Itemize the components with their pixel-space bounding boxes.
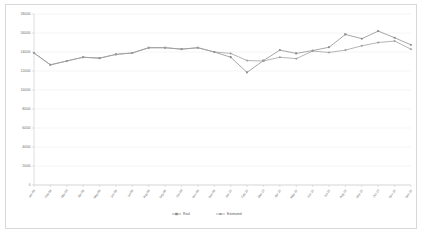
x-axis-tick-label: Dec-10	[404, 189, 413, 199]
series-line-real	[34, 31, 411, 72]
x-axis-tick-label: Dec-09	[207, 189, 216, 199]
x-axis-tick-label: Jul-09	[126, 189, 134, 198]
data-point-marker	[377, 42, 379, 44]
data-point-marker	[394, 37, 395, 38]
legend-marker	[176, 213, 177, 214]
y-axis-tick-label: 180000	[20, 12, 30, 16]
data-point-marker	[345, 34, 346, 35]
x-axis-tick-label: Feb-10	[240, 189, 249, 199]
x-axis-tick-label: Aug-10	[339, 189, 348, 199]
data-point-marker	[410, 44, 411, 45]
series-line-estimated	[34, 41, 411, 65]
y-axis-tick-label: 20000	[22, 164, 31, 168]
data-point-marker	[378, 30, 379, 31]
data-point-marker	[328, 47, 329, 48]
x-axis-tick-label: Oct-09	[175, 189, 184, 199]
x-axis-tick-label: May-09	[93, 189, 102, 200]
y-axis-tick-label: 140000	[20, 50, 30, 54]
x-axis-tick-label: Apr-10	[273, 189, 282, 199]
y-axis-tick-label: 120000	[20, 69, 30, 73]
x-axis-tick-label: Jul-10	[323, 189, 331, 198]
x-axis-tick-label: Jun-09	[109, 189, 118, 199]
plot-area: 0200004000060000800001000001200001400001…	[6, 5, 416, 228]
x-axis-tick-label: Jan-09	[27, 189, 36, 199]
x-axis-tick-label: Sep-09	[158, 189, 167, 199]
data-point-marker	[279, 49, 280, 50]
x-axis-tick-label: Nov-10	[388, 189, 397, 199]
y-axis-tick-label: 80000	[22, 107, 31, 111]
x-axis-tick-label: Mar-09	[60, 189, 69, 199]
chart-container: 0200004000060000800001000001200001400001…	[5, 4, 417, 229]
x-axis-tick-label: Sep-10	[355, 189, 364, 199]
x-axis-tick-label: Jun-10	[306, 189, 315, 199]
data-point-marker	[361, 45, 363, 47]
x-axis-tick-label: Nov-09	[191, 189, 200, 199]
data-point-marker	[230, 57, 231, 58]
y-axis-tick-label: 100000	[20, 88, 30, 92]
data-point-marker	[279, 56, 281, 58]
y-axis-tick-label: 0	[29, 183, 31, 187]
x-axis-tick-label: Mar-10	[257, 189, 266, 199]
y-axis-tick-label: 40000	[22, 145, 31, 149]
data-point-marker	[328, 51, 330, 53]
line-chart: 0200004000060000800001000001200001400001…	[6, 5, 418, 230]
legend-label-estimated: Estimated	[227, 212, 242, 216]
data-point-marker	[361, 38, 362, 39]
y-axis-tick-label: 60000	[22, 126, 31, 130]
legend-label-real: Real	[183, 212, 190, 216]
x-axis-tick-label: Oct-10	[372, 189, 381, 199]
data-point-marker	[246, 72, 247, 73]
x-axis-tick-label: Apr-09	[77, 189, 86, 199]
y-axis-tick-label: 160000	[20, 31, 30, 35]
legend-marker	[220, 213, 222, 215]
x-axis-tick-label: May-10	[289, 189, 298, 200]
x-axis-tick-label: Aug-09	[142, 189, 151, 199]
data-point-marker	[344, 49, 346, 51]
x-axis-tick-label: Jan-10	[224, 189, 233, 199]
x-axis-tick-label: Feb-09	[44, 189, 53, 199]
data-point-marker	[296, 53, 297, 54]
